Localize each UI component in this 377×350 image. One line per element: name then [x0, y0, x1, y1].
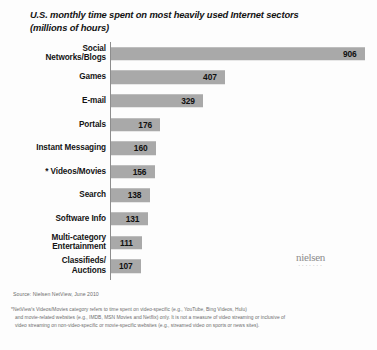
category-label: Multi-category Entertainment [0, 233, 106, 252]
footnote-line-2: and movie-related websites (e.g., IMDB, … [11, 314, 371, 322]
nielsen-logo-tagline: ▪ ▪ ▪ ▪ ▪ ▪ ▪ [296, 264, 325, 267]
bar-value-label: 176 [138, 120, 152, 130]
chart-title-line-1: U.S. monthly time spent on most heavily … [30, 9, 360, 22]
category-label: * Videos/Movies [0, 167, 106, 177]
category-label: Search [0, 191, 106, 201]
bar-value-label: 111 [120, 238, 133, 248]
footnote-line-1: *NetView's Videos/Movies category refers… [11, 306, 371, 314]
bar [111, 118, 160, 132]
chart-figure: U.S. monthly time spent on most heavily … [0, 0, 377, 350]
nielsen-logo: nielsen ▪ ▪ ▪ ▪ ▪ ▪ ▪ [296, 252, 325, 267]
category-label: Portals [0, 120, 106, 130]
footnote-line-3: video streaming on non-video-specific or… [11, 322, 371, 330]
bar-row: Software Info131 [0, 207, 377, 231]
category-label: Games [0, 73, 106, 83]
bar-row: * Videos/Movies156 [0, 160, 377, 184]
bar-value-label: 131 [126, 214, 140, 224]
category-label: E-mail [0, 96, 106, 106]
bar [111, 47, 365, 61]
footnote-block: *NetView's Videos/Movies category refers… [11, 306, 371, 330]
source-note: Source: Nielsen NetView, June 2010 [13, 291, 99, 297]
chart-title-line-2: (millions of hours) [30, 22, 360, 35]
category-label: Social Networks/Blogs [0, 44, 106, 63]
plot-area: Social Networks/Blogs906Games407E-mail32… [0, 42, 377, 282]
bar-value-label: 156 [133, 167, 147, 177]
bar-row: Search138 [0, 184, 377, 208]
bar-value-label: 138 [128, 190, 142, 200]
bar-row: Instant Messaging160 [0, 136, 377, 160]
bar-row: Social Networks/Blogs906 [0, 42, 377, 66]
category-label: Software Info [0, 214, 106, 224]
category-label: Instant Messaging [0, 143, 106, 153]
chart-title: U.S. monthly time spent on most heavily … [30, 9, 360, 34]
bar-row: Portals176 [0, 113, 377, 137]
bar-value-label: 160 [134, 143, 148, 153]
bar-value-label: 407 [203, 72, 217, 82]
bar-value-label: 906 [343, 49, 357, 59]
category-label: Classifieds/ Auctions [0, 257, 106, 276]
bar-row: E-mail329 [0, 89, 377, 113]
nielsen-wordmark: nielsen [296, 252, 325, 263]
bar-value-label: 107 [119, 261, 133, 271]
bar-value-label: 329 [181, 96, 195, 106]
bar-row: Games407 [0, 66, 377, 90]
